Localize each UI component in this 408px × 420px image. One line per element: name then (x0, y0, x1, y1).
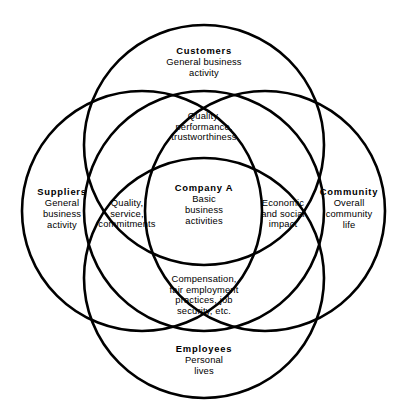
label-suppliers: Suppliers General business activity (37, 187, 86, 230)
label-customers-line-1: activity (166, 68, 241, 79)
label-employees-overlap: Compensation, fair employment practices,… (170, 274, 239, 317)
label-customers: Customers General business activity (166, 46, 241, 79)
label-suppliers-overlap-line-2: commitments (98, 219, 155, 230)
label-community: Community Overall community life (320, 187, 378, 230)
label-customers-overlap-line-2: trustworthiness (171, 132, 236, 143)
label-customers-overlap: Quality, performance, trustworthiness (171, 111, 236, 143)
label-company: Company A Basic business activities (175, 183, 234, 226)
label-employees-line-1: lives (176, 366, 232, 377)
label-employees-overlap-line-3: security, etc. (170, 306, 239, 317)
label-employees: Employees Personal lives (176, 344, 232, 377)
label-community-overlap-line-2: impact (261, 219, 305, 230)
label-company-line-2: activities (175, 216, 234, 227)
label-suppliers-overlap: Quality, service, commitments (98, 198, 155, 230)
label-suppliers-line-2: activity (37, 220, 86, 231)
label-community-overlap: Economic and social impact (261, 198, 305, 230)
label-community-line-2: life (320, 220, 378, 231)
venn-diagram: Customers General business activity Qual… (0, 0, 408, 420)
